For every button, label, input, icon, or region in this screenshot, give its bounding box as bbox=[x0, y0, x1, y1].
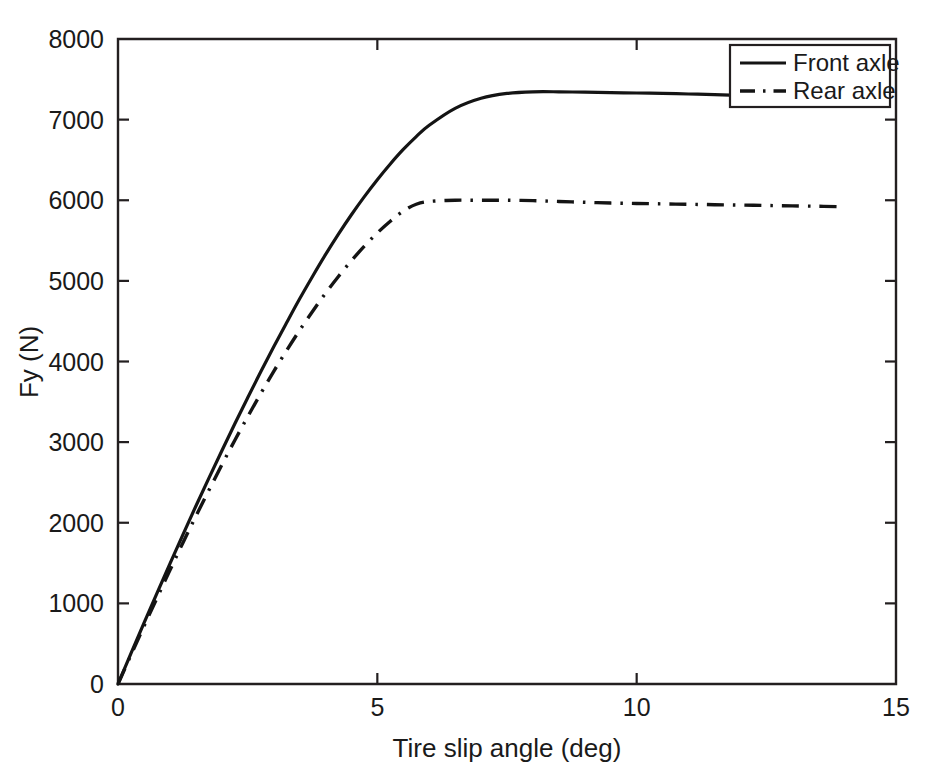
figure-canvas: 051015 010002000300040005000600070008000… bbox=[0, 0, 929, 770]
y-tick-label: 1000 bbox=[48, 589, 104, 617]
x-tick-label: 15 bbox=[882, 693, 910, 721]
y-axis-title: Fy (N) bbox=[14, 326, 44, 398]
y-tick-label: 4000 bbox=[48, 348, 104, 376]
y-tick-label: 8000 bbox=[48, 25, 104, 53]
y-tick-label: 3000 bbox=[48, 428, 104, 456]
y-tick-label: 2000 bbox=[48, 509, 104, 537]
y-tick-label: 0 bbox=[90, 670, 104, 698]
legend-label-front-axle: Front axle bbox=[793, 49, 900, 76]
chart-background bbox=[0, 0, 929, 770]
legend[interactable]: Front axle Rear axle bbox=[730, 45, 900, 107]
y-axis-tick-labels: 010002000300040005000600070008000 bbox=[48, 25, 104, 698]
x-tick-label: 5 bbox=[370, 693, 384, 721]
x-tick-label: 10 bbox=[623, 693, 651, 721]
y-tick-label: 5000 bbox=[48, 267, 104, 295]
y-tick-label: 6000 bbox=[48, 186, 104, 214]
x-tick-label: 0 bbox=[111, 693, 125, 721]
legend-label-rear-axle: Rear axle bbox=[793, 77, 896, 104]
y-tick-label: 7000 bbox=[48, 106, 104, 134]
x-axis-title: Tire slip angle (deg) bbox=[393, 733, 622, 763]
line-chart: 051015 010002000300040005000600070008000… bbox=[0, 0, 929, 770]
